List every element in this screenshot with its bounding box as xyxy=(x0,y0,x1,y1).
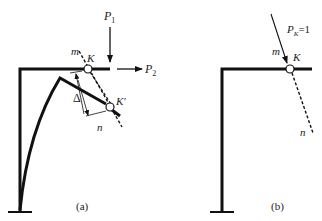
panel-b: PK=1 m K n (b) xyxy=(210,14,313,213)
label-n-b: n xyxy=(300,126,306,138)
caption-b: (b) xyxy=(271,200,284,213)
deformed-tip-a xyxy=(112,110,120,116)
delta-extension-bottom xyxy=(86,111,106,116)
label-unit-force: PK=1 xyxy=(286,23,310,38)
frame-b xyxy=(222,69,312,212)
label-delta: Δ xyxy=(73,91,81,105)
point-k-prime xyxy=(106,103,114,111)
line-k-n-b xyxy=(292,73,313,133)
panel-a: P1 P2 K K′ m n Δ (a) xyxy=(8,9,156,213)
label-k-prime: K′ xyxy=(115,95,126,107)
point-k-b xyxy=(286,65,294,73)
delta-extension-top xyxy=(70,71,82,73)
label-p2: P2 xyxy=(144,62,156,78)
label-m-a: m xyxy=(71,45,79,57)
label-n-a: n xyxy=(97,121,103,133)
deformed-shape-a xyxy=(20,78,106,210)
figure-canvas: P1 P2 K K′ m n Δ (a) PK=1 m K n (b) xyxy=(0,0,322,221)
label-m-b: m xyxy=(272,45,280,57)
caption-a: (a) xyxy=(76,200,89,213)
line-m-n-a xyxy=(79,51,122,127)
point-k-a xyxy=(84,65,92,73)
label-p1: P1 xyxy=(103,9,115,25)
label-k-a: K xyxy=(86,52,95,64)
label-k-b: K xyxy=(292,51,301,63)
